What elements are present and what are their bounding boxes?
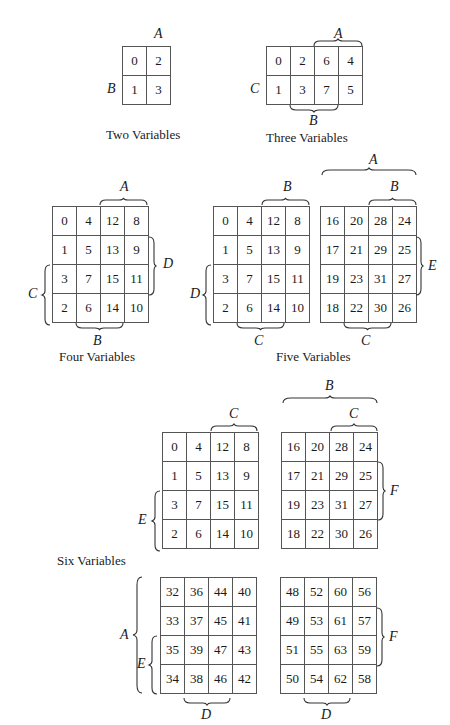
cell: 28 <box>330 433 354 462</box>
label-d-right: D <box>321 707 331 723</box>
cell: 4 <box>238 207 262 236</box>
label-a: A <box>154 26 163 42</box>
cell: 7 <box>187 491 211 520</box>
cell: 5 <box>238 236 262 265</box>
cell: 59 <box>353 636 377 665</box>
cell: 35 <box>161 636 185 665</box>
cell: 53 <box>305 607 329 636</box>
label-f-top: F <box>390 483 399 499</box>
label-a: A <box>369 152 378 168</box>
cell: 29 <box>369 236 393 265</box>
cell: 27 <box>354 491 378 520</box>
brace-c-left <box>211 424 257 432</box>
cell: 4 <box>77 207 101 236</box>
cell: 46 <box>209 665 233 694</box>
cell: 0 <box>123 47 147 76</box>
cell: 0 <box>163 433 187 462</box>
label-a: A <box>120 179 129 195</box>
cell: 28 <box>369 207 393 236</box>
cell: 30 <box>369 294 393 323</box>
cell: 26 <box>354 520 378 549</box>
cell: 43 <box>233 636 257 665</box>
cell: 7 <box>238 265 262 294</box>
cell: 20 <box>306 433 330 462</box>
label-c: C <box>250 81 259 97</box>
cell: 8 <box>235 433 259 462</box>
cell: 14 <box>262 294 286 323</box>
kmap-two-variables: 02 13 <box>122 46 171 105</box>
brace-d-left <box>184 698 230 706</box>
kmap-six-variables-top-left: 04128 15139 371511 261410 <box>162 432 259 549</box>
cell: 23 <box>345 265 369 294</box>
cell: 8 <box>286 207 310 236</box>
cell: 14 <box>101 294 125 323</box>
cell: 51 <box>281 636 305 665</box>
cell: 2 <box>53 294 77 323</box>
cell: 10 <box>286 294 310 323</box>
kmap-six-variables-bottom-right: 48526056 49536157 51556359 50546258 <box>280 577 377 694</box>
kmap-five-variables-right: 16202824 17212925 19233127 18223026 <box>320 206 417 323</box>
cell: 19 <box>282 491 306 520</box>
cell: 24 <box>354 433 378 462</box>
label-d: D <box>163 256 173 272</box>
cell: 31 <box>369 265 393 294</box>
caption-five-variables: Five Variables <box>276 349 351 365</box>
brace-d <box>203 265 211 325</box>
cell: 12 <box>211 433 235 462</box>
cell: 3 <box>147 76 171 105</box>
cell: 7 <box>77 265 101 294</box>
label-b: B <box>309 113 318 129</box>
cell: 50 <box>281 665 305 694</box>
cell: 3 <box>291 76 315 105</box>
brace-b <box>283 396 377 404</box>
label-b-left: B <box>283 179 292 195</box>
cell: 58 <box>353 665 377 694</box>
cell: 4 <box>339 47 363 76</box>
label-b-right: B <box>390 179 399 195</box>
cell: 25 <box>354 462 378 491</box>
cell: 9 <box>235 462 259 491</box>
cell: 25 <box>393 236 417 265</box>
cell: 61 <box>329 607 353 636</box>
cell: 62 <box>329 665 353 694</box>
cell: 14 <box>211 520 235 549</box>
brace-a <box>322 168 416 176</box>
label-d: D <box>190 286 200 302</box>
cell: 17 <box>282 462 306 491</box>
cell: 36 <box>185 578 209 607</box>
cell: 3 <box>214 265 238 294</box>
cell: 9 <box>286 236 310 265</box>
cell: 23 <box>306 491 330 520</box>
cell: 55 <box>305 636 329 665</box>
cell: 13 <box>262 236 286 265</box>
cell: 19 <box>321 265 345 294</box>
cell: 15 <box>262 265 286 294</box>
cell: 3 <box>163 491 187 520</box>
brace-b <box>76 323 123 331</box>
brace-c-left <box>237 323 284 331</box>
brace-a <box>133 577 142 693</box>
cell: 2 <box>147 47 171 76</box>
cell: 0 <box>214 207 238 236</box>
caption-three-variables: Three Variables <box>266 130 348 146</box>
label-c-left: C <box>229 406 238 422</box>
cell: 24 <box>393 207 417 236</box>
cell: 11 <box>235 491 259 520</box>
label-e: E <box>428 258 437 274</box>
brace-b-right <box>369 198 416 206</box>
brace-d-right <box>304 698 350 706</box>
cell: 41 <box>233 607 257 636</box>
cell: 11 <box>286 265 310 294</box>
brace-c <box>42 265 50 325</box>
cell: 12 <box>262 207 286 236</box>
cell: 18 <box>321 294 345 323</box>
cell: 56 <box>353 578 377 607</box>
cell: 38 <box>185 665 209 694</box>
cell: 40 <box>233 578 257 607</box>
kmap-three-variables: 0264 1375 <box>266 46 363 105</box>
cell: 27 <box>393 265 417 294</box>
brace-a <box>100 198 147 206</box>
cell: 1 <box>123 76 147 105</box>
cell: 6 <box>77 294 101 323</box>
cell: 1 <box>214 236 238 265</box>
